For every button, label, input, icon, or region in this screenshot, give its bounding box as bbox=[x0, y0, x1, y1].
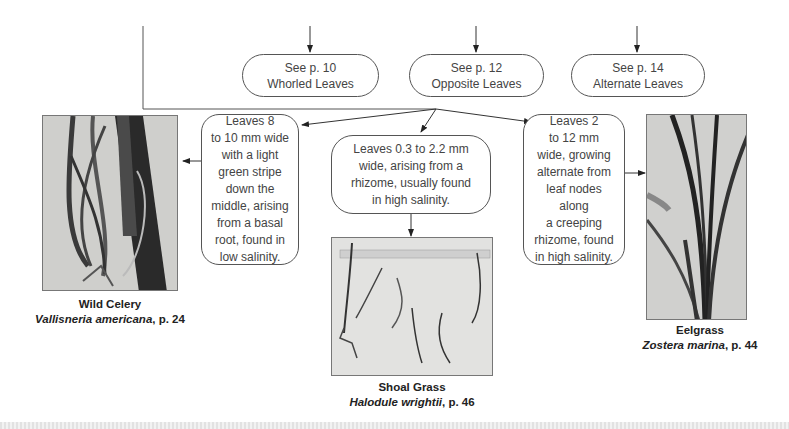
scientific-name-text: Zostera marina bbox=[642, 339, 724, 351]
desc-line: low salinity. bbox=[211, 249, 289, 266]
desc-line: leaf nodes along bbox=[530, 181, 618, 215]
pill-label: Whorled Leaves bbox=[267, 76, 354, 92]
caption-wild-celery: Wild Celery Vallisneria americana, p. 24 bbox=[20, 297, 200, 327]
desc-line: in high salinity. bbox=[530, 249, 618, 266]
desc-line: wide, growing bbox=[530, 147, 618, 164]
desc-line: Leaves 2 bbox=[530, 113, 618, 130]
desc-line: to 12 mm bbox=[530, 130, 618, 147]
photo-eelgrass bbox=[646, 114, 747, 320]
scientific-name: Zostera marina, p. 44 bbox=[615, 338, 785, 353]
scientific-name-text: Halodule wrightii bbox=[349, 396, 442, 408]
desc-line: alternate from bbox=[530, 164, 618, 181]
shoal-grass-image bbox=[332, 238, 493, 376]
desc-line: root, found in bbox=[211, 232, 289, 249]
common-name: Shoal Grass bbox=[322, 380, 502, 395]
caption-eelgrass: Eelgrass Zostera marina, p. 44 bbox=[615, 323, 785, 353]
common-name: Eelgrass bbox=[615, 323, 785, 338]
description-shoal-grass: Leaves 0.3 to 2.2 mm wide, arising from … bbox=[331, 135, 491, 214]
eelgrass-image bbox=[647, 115, 747, 320]
photo-wild-celery bbox=[42, 115, 178, 291]
desc-line: green stripe bbox=[211, 164, 289, 181]
page-ref: , p. 46 bbox=[442, 396, 475, 408]
pill-opposite-leaves[interactable]: See p. 12 Opposite Leaves bbox=[409, 54, 544, 97]
desc-line: wide, arising from a bbox=[351, 158, 471, 175]
desc-line: rhizome, usually found bbox=[351, 175, 471, 192]
desc-line: from a basal bbox=[211, 215, 289, 232]
photo-shoal-grass bbox=[331, 237, 493, 376]
pill-whorled-leaves[interactable]: See p. 10 Whorled Leaves bbox=[242, 54, 379, 97]
desc-line: down the bbox=[211, 181, 289, 198]
desc-line: Leaves 8 bbox=[211, 113, 289, 130]
pill-page-ref: See p. 14 bbox=[612, 60, 663, 76]
description-wild-celery: Leaves 8 to 10 mm wide with a light gree… bbox=[201, 114, 299, 265]
description-eelgrass: Leaves 2 to 12 mm wide, growing alternat… bbox=[523, 114, 625, 265]
desc-line: middle, arising bbox=[211, 198, 289, 215]
caption-shoal-grass: Shoal Grass Halodule wrightii, p. 46 bbox=[322, 380, 502, 410]
page-ref: , p. 24 bbox=[152, 313, 185, 325]
pill-label: Alternate Leaves bbox=[593, 76, 683, 92]
desc-line: in high salinity. bbox=[351, 192, 471, 209]
pill-label: Opposite Leaves bbox=[431, 76, 521, 92]
desc-line: a creeping bbox=[530, 215, 618, 232]
page-bottom-divider bbox=[0, 422, 789, 429]
desc-line: with a light bbox=[211, 147, 289, 164]
pill-alternate-leaves[interactable]: See p. 14 Alternate Leaves bbox=[571, 54, 705, 97]
page-ref: , p. 44 bbox=[725, 339, 758, 351]
scientific-name: Vallisneria americana, p. 24 bbox=[20, 312, 200, 327]
pill-page-ref: See p. 10 bbox=[285, 60, 336, 76]
wild-celery-image bbox=[43, 116, 178, 291]
desc-line: Leaves 0.3 to 2.2 mm bbox=[351, 141, 471, 158]
desc-line: rhizome, found bbox=[530, 232, 618, 249]
scientific-name-text: Vallisneria americana bbox=[35, 313, 152, 325]
desc-line: to 10 mm wide bbox=[211, 130, 289, 147]
scientific-name: Halodule wrightii, p. 46 bbox=[322, 395, 502, 410]
pill-page-ref: See p. 12 bbox=[451, 60, 502, 76]
common-name: Wild Celery bbox=[20, 297, 200, 312]
